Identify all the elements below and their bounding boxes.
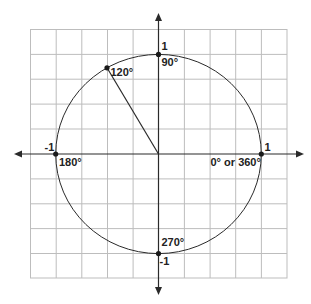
arrow-right-icon [296, 151, 304, 158]
arrow-up-icon [155, 13, 162, 21]
label-180-degrees: 180° [59, 156, 82, 168]
point-120-degrees [104, 65, 109, 70]
arrow-down-icon [155, 287, 162, 295]
label-0-or-360-degrees: 0° or 360° [211, 156, 261, 168]
label-bottom-minus-one: -1 [160, 255, 170, 267]
label-90-degrees: 90° [162, 56, 179, 68]
label-left-minus-one: -1 [45, 141, 55, 153]
label-right-one: 1 [265, 141, 271, 153]
label-top-one: 1 [162, 40, 168, 52]
arrow-left-icon [14, 151, 22, 158]
label-270-degrees: 270° [162, 236, 185, 248]
unit-circle-diagram: 1 -1 -1 1 90° 120° 180° 270° 0° or 360° [0, 0, 311, 304]
label-120-degrees: 120° [111, 66, 134, 78]
point-90-degrees [156, 52, 161, 57]
